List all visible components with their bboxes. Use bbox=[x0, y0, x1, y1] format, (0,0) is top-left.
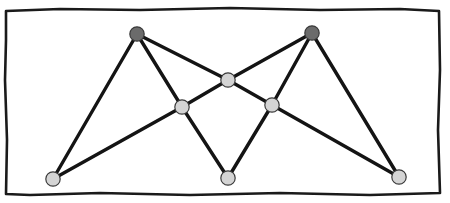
graph-vertex-h[interactable] bbox=[392, 170, 406, 184]
graph-vertex-d[interactable] bbox=[175, 100, 189, 114]
graph-drawing bbox=[0, 0, 450, 203]
graph-vertex-f[interactable] bbox=[46, 172, 60, 186]
graph-vertex-e[interactable] bbox=[265, 98, 279, 112]
graph-vertex-g[interactable] bbox=[221, 171, 235, 185]
graph-vertex-a[interactable] bbox=[130, 27, 144, 41]
graph-vertex-c[interactable] bbox=[221, 73, 235, 87]
graph-vertex-b[interactable] bbox=[305, 26, 319, 40]
figure-canvas bbox=[0, 0, 450, 203]
